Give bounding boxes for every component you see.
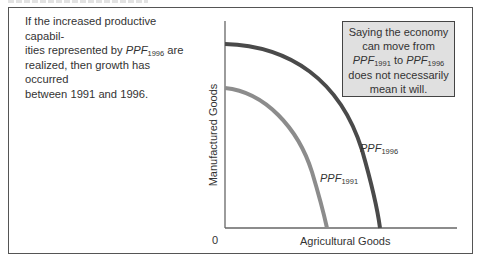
callout-line: mean it will. <box>370 83 427 95</box>
ppf-subscript: 1991 <box>374 59 391 68</box>
callout-box: Saying the economy can move from PPF1991… <box>342 21 455 97</box>
callout-line: can move from <box>362 40 435 52</box>
ppf-1991-curve <box>225 88 327 228</box>
ppf-symbol: PPF <box>353 54 374 66</box>
ppf-symbol: PPF <box>360 142 381 154</box>
callout-line: does not necessarily <box>348 69 448 81</box>
ppf-subscript: 1991 <box>341 177 358 186</box>
callout-line: Saying the economy <box>349 26 449 38</box>
ppf-1991-label: PPF1991 <box>320 172 358 184</box>
y-axis-label: Manufactured Goods <box>207 84 219 187</box>
ppf-symbol: PPF <box>320 172 341 184</box>
ppf-1996-label: PPF1996 <box>360 142 398 154</box>
ppf-subscript: 1996 <box>428 59 445 68</box>
callout-line: to <box>391 54 406 66</box>
origin-label: 0 <box>212 234 218 246</box>
x-axis-label: Agricultural Goods <box>300 235 391 247</box>
ppf-subscript: 1996 <box>381 147 398 156</box>
ppf-symbol: PPF <box>406 54 427 66</box>
